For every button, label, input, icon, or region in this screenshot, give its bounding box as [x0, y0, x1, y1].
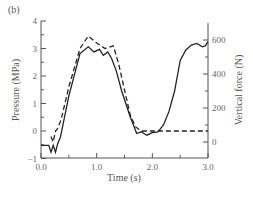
- x-ticks: 0.01.02.03.0: [35, 153, 214, 172]
- right-tick-label: 200: [212, 103, 226, 113]
- left-tick-label: 4: [33, 16, 38, 26]
- x-tick-label: 0.0: [35, 162, 47, 172]
- x-tick-label: 2.0: [147, 162, 159, 172]
- left-tick-label: 2: [33, 71, 38, 81]
- right-tick-label: 400: [212, 69, 226, 79]
- panel-label: (b): [8, 4, 20, 16]
- right-tick-label: 0: [212, 137, 217, 147]
- x-axis-label: Time (s): [107, 172, 141, 184]
- right-y-axis-label: Vertical force (N): [233, 55, 245, 126]
- right-tick-label: 600: [212, 35, 226, 45]
- left-tick-label: 3: [33, 44, 38, 54]
- vertical-force-line: [41, 42, 208, 153]
- x-tick-label: 1.0: [91, 162, 103, 172]
- x-tick-label: 3.0: [202, 162, 214, 172]
- left-tick-label: 1: [33, 99, 38, 109]
- left-y-ticks: −101234: [27, 16, 46, 164]
- right-y-ticks: 0200400600: [203, 35, 226, 147]
- left-y-axis-label: Pressure (MPa): [10, 59, 22, 121]
- dual-axis-line-chart: (b) −101234 0200400600 0.01.02.03.0 Time…: [0, 0, 253, 198]
- left-tick-label: 0: [33, 126, 38, 136]
